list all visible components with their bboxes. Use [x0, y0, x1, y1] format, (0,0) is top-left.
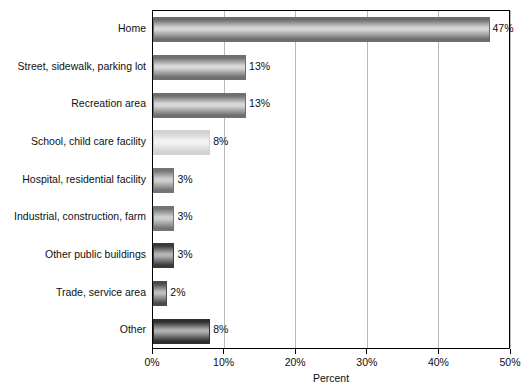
x-tick-label: 40%	[428, 357, 449, 368]
category-label: Street, sidewalk, parking lot	[0, 61, 146, 72]
bar-value-label: 13%	[249, 98, 270, 109]
x-tick-mark	[510, 349, 511, 354]
gridline-20	[295, 11, 296, 348]
category-label: Industrial, construction, farm	[0, 211, 146, 222]
x-tick-label: 10%	[213, 357, 234, 368]
gridline-40	[438, 11, 439, 348]
bar-chart: HomeStreet, sidewalk, parking lotRecreat…	[0, 0, 523, 392]
x-tick-mark	[366, 349, 367, 354]
bar-value-label: 3%	[177, 211, 192, 222]
x-tick-label: 50%	[499, 357, 520, 368]
x-tick-mark	[223, 349, 224, 354]
category-label: School, child care facility	[0, 136, 146, 147]
x-tick-label: 30%	[356, 357, 377, 368]
category-label: Other public buildings	[0, 249, 146, 260]
category-label: Other	[0, 324, 146, 335]
x-tick-label: 20%	[285, 357, 306, 368]
bar	[153, 130, 210, 155]
category-label: Hospital, residential facility	[0, 174, 146, 185]
bar-value-label: 47%	[493, 23, 514, 34]
bar	[153, 93, 246, 118]
bar-value-label: 3%	[177, 174, 192, 185]
category-label: Recreation area	[0, 98, 146, 109]
bar-value-label: 2%	[170, 287, 185, 298]
gridline-30	[367, 11, 368, 348]
bar	[153, 55, 246, 80]
bar	[153, 281, 167, 306]
category-label: Trade, service area	[0, 287, 146, 298]
bar	[153, 206, 174, 231]
bar-value-label: 13%	[249, 61, 270, 72]
bar-value-label: 8%	[213, 136, 228, 147]
x-tick-label: 0%	[144, 357, 159, 368]
x-axis-title: Percent	[313, 373, 349, 384]
bar	[153, 168, 174, 193]
bar	[153, 17, 490, 42]
gridline-50	[510, 11, 511, 348]
x-tick-mark	[295, 349, 296, 354]
x-tick-mark	[152, 349, 153, 354]
bar-value-label: 3%	[177, 249, 192, 260]
bar	[153, 319, 210, 344]
category-axis: HomeStreet, sidewalk, parking lotRecreat…	[0, 0, 146, 392]
plot-area	[152, 10, 510, 349]
x-tick-mark	[438, 349, 439, 354]
bar	[153, 243, 174, 268]
category-label: Home	[0, 23, 146, 34]
bar-value-label: 8%	[213, 324, 228, 335]
